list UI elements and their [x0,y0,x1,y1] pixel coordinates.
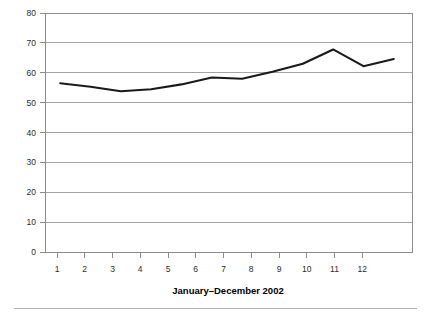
y-tick-label: 80 [27,8,37,18]
y-tick-label: 60 [27,68,37,78]
x-tick-label: 12 [357,264,367,274]
x-tick-label: 3 [110,264,115,274]
chart-figure: 80 70 60 50 40 30 20 10 0 1 [0,0,431,314]
y-tick-label: 40 [27,128,37,138]
line-chart: 80 70 60 50 40 30 20 10 0 1 [0,0,431,314]
y-tick-label: 10 [27,217,37,227]
x-tick-label: 9 [277,264,282,274]
y-tickmarks [40,13,45,252]
x-tickmarks [57,252,362,258]
x-axis-labels: 1 2 3 4 5 6 7 8 9 10 11 12 [55,264,368,274]
x-tick-label: 8 [249,264,254,274]
y-tick-label: 20 [27,187,37,197]
x-axis-title: January–December 2002 [172,285,283,296]
x-tick-label: 2 [82,264,87,274]
x-tick-label: 11 [330,264,339,274]
y-tick-label: 70 [27,38,37,48]
y-axis-labels: 80 70 60 50 40 30 20 10 0 [27,8,37,257]
x-tick-label: 6 [193,264,198,274]
y-tick-label: 0 [31,247,36,257]
x-tick-label: 4 [138,264,143,274]
x-tick-label: 7 [221,264,226,274]
x-tick-label: 5 [166,264,171,274]
x-tick-label: 1 [55,264,60,274]
y-tick-label: 30 [27,157,37,167]
x-tick-label: 10 [302,264,312,274]
y-tick-label: 50 [27,98,37,108]
